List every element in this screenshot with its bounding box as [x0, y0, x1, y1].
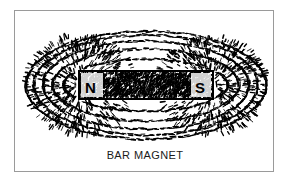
figure-frame: N S BAR MAGNET [14, 10, 274, 172]
figure-caption: BAR MAGNET [15, 149, 275, 161]
north-pole-label: N [85, 79, 96, 96]
figure-root: N S BAR MAGNET [0, 0, 288, 184]
south-pole-label: S [195, 79, 205, 96]
